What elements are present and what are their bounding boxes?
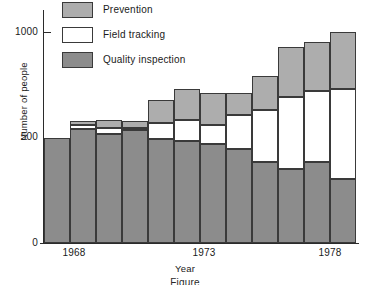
x-tick-label-1978: 1978 (300, 247, 360, 258)
bar-segment-field-1968 (70, 125, 96, 129)
legend-swatch-field-tracking (62, 27, 93, 43)
legend-swatch-prevention (62, 2, 93, 18)
bar-segment-quality-1968 (70, 129, 96, 243)
y-tick-label-0: 0 (4, 237, 38, 248)
bar-segment-field-1972 (174, 120, 200, 141)
bar-segment-field-1969 (96, 128, 122, 134)
bar-segment-quality-1972 (174, 141, 200, 243)
x-tick-label-1973: 1973 (174, 247, 234, 258)
bar-segment-quality-1977 (304, 162, 330, 243)
bar-segment-prevention-1974 (226, 93, 252, 115)
bar-segment-quality-1975 (252, 162, 278, 243)
bar-1975 (252, 32, 278, 243)
bar-segment-field-1978 (330, 89, 356, 179)
bar-1976 (278, 32, 304, 243)
bar-segment-field-1975 (252, 110, 278, 162)
bar-1973 (200, 32, 226, 243)
bar-1977 (304, 32, 330, 243)
y-tick-label-500: 500 (4, 131, 38, 142)
x-tick-label-1968: 1968 (44, 247, 104, 258)
bar-segment-quality-1976 (278, 169, 304, 243)
bar-segment-quality-1978 (330, 179, 356, 243)
figure-stacked-bar-chart: Number of people 1000 500 0 1968 1973 19… (0, 0, 370, 285)
y-tick-label-1000: 1000 (4, 26, 38, 37)
bar-segment-quality-1971 (148, 139, 174, 243)
bar-segment-prevention-1971 (148, 100, 174, 123)
legend-label-field-tracking: Field tracking (103, 29, 165, 40)
bar-segment-quality-1969 (96, 134, 122, 243)
bar-segment-prevention-1973 (200, 93, 226, 125)
bar-segment-field-1977 (304, 91, 330, 162)
x-axis-label: Year (0, 263, 370, 274)
bar-segment-field-1973 (200, 125, 226, 144)
bar-segment-field-1971 (148, 123, 174, 139)
bar-1978 (330, 32, 356, 243)
bar-segment-field-1970 (122, 128, 148, 130)
figure-caption: Figure (0, 277, 370, 285)
bar-segment-quality-1970 (122, 130, 148, 243)
y-axis-label: Number of people (18, 62, 29, 141)
bar-segment-prevention-1970 (122, 121, 148, 128)
bar-segment-quality-1973 (200, 144, 226, 243)
bar-segment-field-1974 (226, 115, 252, 149)
bar-segment-prevention-1972 (174, 89, 200, 120)
legend-label-quality-inspection: Quality inspection (103, 54, 186, 65)
bar-segment-prevention-1975 (252, 76, 278, 110)
bar-1974 (226, 32, 252, 243)
bar-segment-prevention-1978 (330, 32, 356, 89)
legend-label-prevention: Prevention (103, 4, 153, 15)
legend-swatch-quality-inspection (62, 52, 93, 68)
x-axis-line (40, 243, 359, 244)
bar-segment-prevention-1976 (278, 47, 304, 98)
bar-segment-prevention-1968 (70, 121, 96, 125)
bar-segment-field-1976 (278, 97, 304, 169)
bar-segment-prevention-1977 (304, 42, 330, 92)
bar-segment-quality-1967 (44, 138, 70, 244)
bar-segment-quality-1974 (226, 149, 252, 243)
bar-segment-prevention-1969 (96, 120, 122, 128)
